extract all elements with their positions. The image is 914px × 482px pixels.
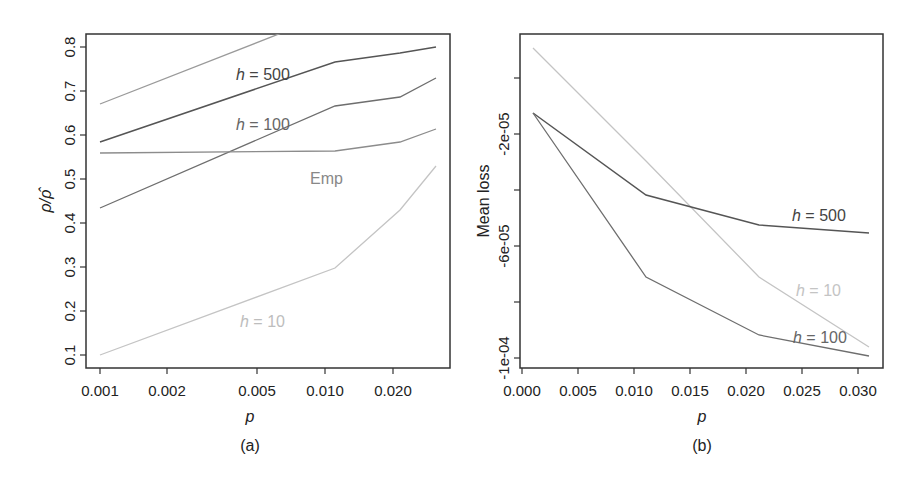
- y-tick-label: 0.3: [61, 257, 78, 278]
- series-label-h10: h = 10: [796, 282, 841, 299]
- y-tick-label: -2e-05: [495, 112, 512, 155]
- x-tick-label: 0.010: [615, 382, 653, 399]
- chart-a-panel-label: (a): [240, 437, 260, 454]
- y-tick-label: -6e-05: [495, 224, 512, 267]
- series-line-h10: [533, 48, 869, 347]
- y-tick-label: -1e-04: [495, 336, 512, 379]
- y-tick-label: 0.7: [61, 81, 78, 102]
- chart-b-y-axis: [514, 78, 520, 358]
- x-tick-label: 0.025: [783, 382, 821, 399]
- chart-b-x-axis-title: p: [697, 408, 707, 425]
- series-label-h10: h = 10: [240, 313, 285, 330]
- x-tick-label: 0.002: [148, 382, 186, 399]
- x-tick-label: 0.005: [559, 382, 597, 399]
- x-tick-label: 0.015: [671, 382, 709, 399]
- chart-a-y-axis-title: ρ/ρ̂: [37, 187, 54, 214]
- chart-b-y-axis-title: Mean loss: [475, 165, 492, 238]
- y-tick-label: 0.2: [61, 301, 78, 322]
- series-label-h500: h = 500: [792, 207, 846, 224]
- chart-b-panel-label: (b): [692, 437, 712, 454]
- x-tick-label: 0.000: [503, 382, 541, 399]
- y-tick-label: 0.8: [61, 37, 78, 58]
- x-tick-label: 0.020: [727, 382, 765, 399]
- chart-a-x-axis-title: p: [245, 408, 255, 425]
- x-tick-label: 0.010: [306, 382, 344, 399]
- chart-b-x-axis: [522, 368, 858, 374]
- chart-a-x-axis: [100, 368, 393, 374]
- x-tick-label: 0.005: [238, 382, 276, 399]
- figure: 0.8 0.7 0.6 0.5 0.4 0.3 0.2 0.1 ρ/ρ̂ 0.0…: [0, 0, 914, 482]
- chart-b-plot-frame: [520, 34, 883, 368]
- series-line-unlabeled: [100, 12, 335, 104]
- series-label-h500: h = 500: [236, 66, 290, 83]
- chart-a-y-axis: [80, 47, 86, 355]
- y-tick-label: 0.4: [61, 213, 78, 234]
- x-tick-label: 0.001: [81, 382, 119, 399]
- chart-b-x-tick-labels: 0.000 0.005 0.010 0.015 0.020 0.025 0.03…: [503, 382, 877, 399]
- x-tick-label: 0.020: [374, 382, 412, 399]
- series-label-h100: h = 100: [793, 329, 847, 346]
- chart-a-y-tick-labels: 0.8 0.7 0.6 0.5 0.4 0.3 0.2 0.1: [61, 37, 78, 366]
- chart-b-y-tick-labels: -2e-05 -6e-05 -1e-04: [495, 112, 512, 379]
- y-tick-label: 0.1: [61, 345, 78, 366]
- x-tick-label: 0.030: [839, 382, 877, 399]
- series-label-emp: Emp: [310, 170, 343, 187]
- chart-a: 0.8 0.7 0.6 0.5 0.4 0.3 0.2 0.1 ρ/ρ̂ 0.0…: [37, 12, 450, 454]
- y-tick-label: 0.5: [61, 169, 78, 190]
- y-tick-label: 0.6: [61, 125, 78, 146]
- series-line-h100: [100, 78, 436, 208]
- series-label-h100: h = 100: [236, 116, 290, 133]
- chart-a-x-tick-labels: 0.001 0.002 0.005 0.010 0.020: [81, 382, 412, 399]
- chart-b: -2e-05 -6e-05 -1e-04 Mean loss 0.000 0.0…: [475, 34, 883, 454]
